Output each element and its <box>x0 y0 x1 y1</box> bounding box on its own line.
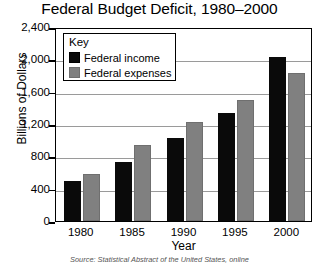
legend-entry: Federal income <box>69 50 175 65</box>
y-tick-label: 2,000 <box>0 54 50 66</box>
bar-income-2000 <box>269 57 286 221</box>
bar-expenses-1995 <box>237 100 254 221</box>
bar-chart-figure: Federal Budget Deficit, 1980–2000 Billio… <box>0 0 319 265</box>
y-tick-label: 2,400 <box>0 22 50 34</box>
y-tick-label: 1,600 <box>0 87 50 99</box>
bar-group <box>269 29 305 221</box>
x-tick-label: 2000 <box>256 226 316 238</box>
legend-entry: Federal expenses <box>69 65 175 80</box>
legend-key-box: Key Federal incomeFederal expenses <box>63 33 176 81</box>
legend-title: Key <box>69 36 175 49</box>
bar-income-1995 <box>218 113 235 221</box>
bar-expenses-2000 <box>288 73 305 221</box>
bar-income-1990 <box>167 138 184 221</box>
source-note: Source: Statistical Abstract of the Unit… <box>0 255 319 264</box>
y-tick-label: 1,200 <box>0 119 50 131</box>
y-tick-label: 800 <box>0 151 50 163</box>
bar-expenses-1990 <box>186 122 203 221</box>
bar-income-1985 <box>115 162 132 221</box>
bar-expenses-1980 <box>83 174 100 221</box>
y-tick-mark <box>49 222 55 224</box>
bar-group <box>218 29 254 221</box>
gray-swatch <box>69 67 80 78</box>
chart-title: Federal Budget Deficit, 1980–2000 <box>0 0 319 18</box>
x-axis-title: Year <box>55 240 312 253</box>
bar-income-1980 <box>64 181 81 221</box>
bar-expenses-1985 <box>134 145 151 221</box>
legend-entry-label: Federal expenses <box>84 67 171 79</box>
y-tick-label: 0 <box>0 216 50 228</box>
y-tick-label: 400 <box>0 184 50 196</box>
black-swatch <box>69 52 80 63</box>
legend-entries: Federal incomeFederal expenses <box>69 50 175 80</box>
legend-entry-label: Federal income <box>84 52 160 64</box>
